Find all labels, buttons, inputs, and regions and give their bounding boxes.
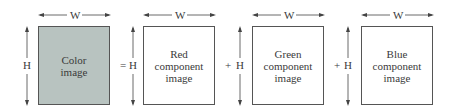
red-component-box: Redcomponentimage	[143, 26, 215, 105]
panel-label: component	[373, 60, 422, 72]
panel-label: Blue	[387, 48, 408, 60]
panel-label: image	[384, 72, 411, 84]
height-label: H	[129, 59, 137, 71]
blue-component-box: Bluecomponentimage	[361, 26, 433, 105]
panel-label: image	[275, 72, 302, 84]
width-label: W	[70, 9, 80, 21]
panel-label: image	[166, 72, 193, 84]
panel-label: Color	[61, 54, 86, 66]
height-label: H	[23, 59, 31, 71]
panel-label: Green	[275, 48, 302, 60]
height-label: H	[236, 59, 244, 71]
panel-label: component	[264, 60, 313, 72]
height-label: H	[344, 59, 352, 71]
width-label: W	[393, 9, 403, 21]
panel-label: component	[155, 60, 204, 72]
width-label: W	[284, 9, 294, 21]
plus-operator: +	[334, 59, 340, 71]
color-image-box: Colorimage	[38, 26, 110, 105]
green-component-box: Greencomponentimage	[252, 26, 324, 105]
equals-operator: =	[120, 59, 126, 71]
panel-label: Red	[170, 48, 188, 60]
plus-operator: +	[225, 59, 231, 71]
width-label: W	[175, 9, 185, 21]
panel-label: image	[61, 66, 88, 78]
